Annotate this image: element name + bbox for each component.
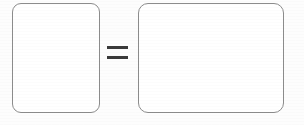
right-rectangle-label bbox=[139, 4, 140, 5]
equals-sign-icon: = bbox=[107, 46, 128, 59]
right-rounded-rectangle[interactable] bbox=[138, 3, 284, 113]
left-rounded-rectangle[interactable] bbox=[12, 3, 100, 113]
left-rectangle-label bbox=[13, 4, 14, 5]
equals-bar-bottom bbox=[107, 56, 128, 59]
diagram-canvas: = bbox=[0, 0, 304, 125]
equals-bar-top bbox=[107, 46, 128, 49]
